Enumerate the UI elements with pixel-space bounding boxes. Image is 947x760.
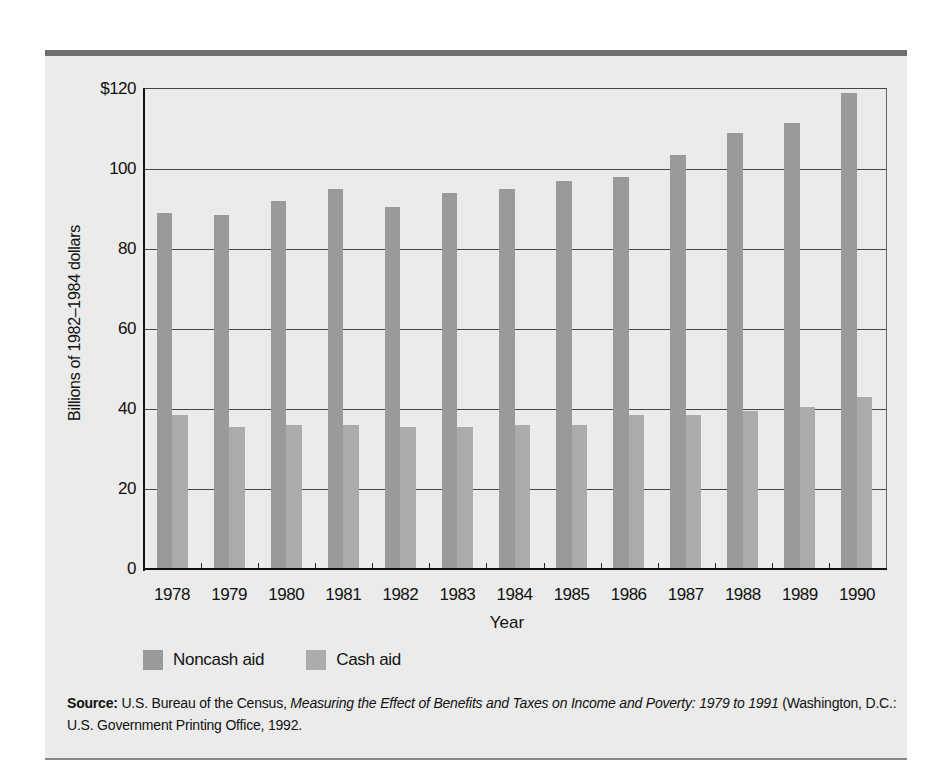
bar-noncash <box>670 155 686 569</box>
y-tick-label: 40 <box>118 399 136 419</box>
y-axis <box>143 88 145 571</box>
source-title: Measuring the Effect of Benefits and Tax… <box>290 695 778 711</box>
x-tick-label: 1978 <box>154 585 190 605</box>
y-tick-label: 80 <box>118 239 136 259</box>
legend-label-cash: Cash aid <box>336 650 401 670</box>
legend-swatch-noncash <box>143 650 163 670</box>
bar-cash <box>572 425 588 569</box>
gridline <box>144 409 886 410</box>
x-tick-label: 1988 <box>725 585 761 605</box>
bar-cash <box>229 427 245 569</box>
y-tick-label: 0 <box>127 559 136 579</box>
legend-swatch-cash <box>306 650 326 670</box>
bar-noncash <box>328 189 344 569</box>
x-tick-label: 1985 <box>554 585 590 605</box>
bar-cash <box>800 407 816 569</box>
bar-noncash <box>613 177 629 569</box>
x-tick-label: 1979 <box>211 585 247 605</box>
bar-cash <box>686 415 702 569</box>
x-tick-label: 1990 <box>839 585 875 605</box>
bar-noncash <box>271 201 287 569</box>
y-tick-label: $120 <box>100 79 136 99</box>
bar-noncash <box>499 189 515 569</box>
y-tick-label: 60 <box>118 319 136 339</box>
legend-item-noncash: Noncash aid <box>143 650 264 670</box>
gridline <box>144 169 886 170</box>
bar-noncash <box>214 215 230 569</box>
x-tick-label: 1986 <box>611 585 647 605</box>
bar-cash <box>172 415 188 569</box>
source-text-1: U.S. Bureau of the Census, <box>118 695 291 711</box>
legend-item-cash: Cash aid <box>306 650 401 670</box>
gridline <box>144 329 886 330</box>
legend-label-noncash: Noncash aid <box>173 650 264 670</box>
bar-cash <box>629 415 645 569</box>
bar-cash <box>343 425 359 569</box>
x-tick-label: 1983 <box>440 585 476 605</box>
bar-noncash <box>841 93 857 569</box>
bar-cash <box>457 427 473 569</box>
bar-cash <box>857 397 873 569</box>
legend: Noncash aid Cash aid <box>143 650 443 670</box>
x-axis-title: Year <box>490 613 524 633</box>
gridline <box>144 249 886 250</box>
source-label: Source: <box>67 695 118 711</box>
bar-cash <box>743 411 759 569</box>
bar-cash <box>515 425 531 569</box>
x-axis <box>143 568 887 570</box>
y-axis-title: Billions of 1982–1984 dollars <box>66 225 84 421</box>
bar-noncash <box>784 123 800 569</box>
bar-noncash <box>385 207 401 569</box>
bar-noncash <box>157 213 173 569</box>
top-band <box>45 50 907 56</box>
x-tick-label: 1980 <box>268 585 304 605</box>
x-tick-label: 1987 <box>668 585 704 605</box>
bar-noncash <box>556 181 572 569</box>
y-tick-label: 20 <box>118 479 136 499</box>
x-tick-label: 1981 <box>325 585 361 605</box>
bar-cash <box>400 427 416 569</box>
x-tick-label: 1989 <box>782 585 818 605</box>
y-tick-label: 100 <box>109 159 136 179</box>
x-tick-label: 1984 <box>497 585 533 605</box>
bar-cash <box>286 425 302 569</box>
source-note: Source: U.S. Bureau of the Census, Measu… <box>67 692 897 736</box>
bar-noncash <box>727 133 743 569</box>
bar-noncash <box>442 193 458 569</box>
x-tick-label: 1982 <box>382 585 418 605</box>
